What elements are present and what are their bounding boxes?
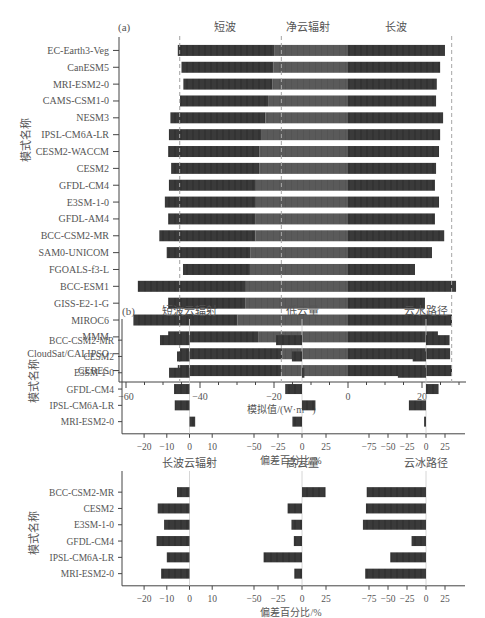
model-label: GISS-E2-1-G [54,298,109,309]
bar [292,351,302,361]
bar [276,335,302,345]
bar [285,384,302,394]
bar [409,400,426,410]
bar [426,384,439,394]
bar-net [258,331,348,342]
bar-longwave [348,213,435,224]
panel-b-top-chart: (b)模式名称BCC-CSM2-MRCESM2E3SM-1-0GFDL-CM4I… [27,304,465,466]
bar [367,487,426,497]
subplot-title: 低云量 [286,305,319,317]
bar-shortwave [138,281,246,292]
model-label: GFDL-CM4 [66,385,114,395]
model-label: FGOALS-f3-L [49,264,109,275]
bar-longwave [348,197,439,208]
bar-longwave [348,331,438,342]
model-label: IPSL-CM6A-LR [50,401,115,411]
bar-longwave [348,112,443,123]
x-tick-label: −20 [266,391,282,402]
bar [390,552,426,562]
bar-shortwave [178,365,282,376]
bar [164,520,189,530]
subplot-title: 长波云辐射 [162,456,217,469]
model-label: NESM3 [76,112,109,123]
x-axis-label: 偏差百分比/% [260,606,321,618]
bar [412,536,426,546]
bar-longwave [348,264,415,275]
bar [302,368,304,378]
x-tick-label: 25 [440,442,450,452]
model-label: CanESM5 [67,62,109,73]
bar-longwave [348,163,436,174]
bar-net [250,264,348,275]
bar-longwave [348,146,439,157]
bar [169,368,189,378]
bar-shortwave [165,197,256,208]
model-label: IPSL-CM6A-LR [50,553,115,563]
x-tick-label: −75 [362,442,377,452]
bar-net [246,281,348,292]
bar [366,503,426,513]
bar-shortwave [159,230,255,241]
bar-net [268,95,348,106]
x-tick-label: 0 [300,442,305,452]
bar-shortwave [170,112,265,123]
section-title: 短波 [214,20,236,33]
bar-net [256,180,348,191]
bar-net [272,79,348,90]
bar-longwave [348,95,436,106]
x-tick-label: 0 [187,442,192,452]
x-tick-label: 0 [187,594,192,604]
x-tick-label: −10 [159,442,174,452]
model-label: CESM2 [77,163,109,174]
x-tick-label: 0 [300,594,305,604]
bar [292,417,302,427]
bar [426,335,450,345]
x-tick-label: −25 [271,442,286,452]
bar-shortwave [169,129,261,140]
x-tick-label: 10 [207,594,217,604]
subplot-title: 高云量 [286,456,319,469]
model-label: BCC-CSM2-MR [49,488,115,498]
x-tick-label: −20 [137,594,152,604]
bar-longwave [348,281,456,292]
bar-shortwave [168,213,255,224]
x-tick-label: 10 [207,442,217,452]
bar [302,487,326,497]
y-axis-label: 模式名称 [19,118,32,162]
bar-shortwave [169,180,256,191]
x-tick-label: −50 [381,594,396,604]
bar-longwave [348,247,432,258]
model-label: CESM2 [83,352,114,362]
bar [288,503,302,513]
bar-longwave [348,180,435,191]
x-tick-label: 0 [346,391,351,402]
bar [160,335,190,345]
x-tick-label: −25 [271,594,286,604]
x-tick-label: −25 [400,594,415,604]
bar-longwave [348,79,437,90]
y-axis-label: 模式名称 [27,511,40,555]
bar-net [259,163,348,174]
bar [174,384,189,394]
model-label: E3SM-1-0 [74,520,114,530]
x-tick-label: −50 [381,442,396,452]
bar-shortwave [183,264,250,275]
x-tick-label: −60 [118,391,134,402]
model-label: E3SM-1-0 [74,368,114,378]
bar-longwave [348,129,440,140]
bar-shortwave [180,95,268,106]
model-label: CESM2-WACCM [36,146,109,157]
model-label: GFDL-CM4 [66,537,114,547]
x-tick-label: 25 [321,594,331,604]
bar-net [265,112,348,123]
subplot-title: 云水路径 [404,305,448,317]
subplot-title: 短波云辐射 [162,304,217,317]
model-label: MRI-ESM2-0 [53,79,109,90]
bar [365,569,426,579]
model-label: CESM2 [83,504,114,514]
bar [294,536,302,546]
model-label: BCC-ESM1 [60,281,109,292]
bar [161,569,189,579]
bar-shortwave [178,45,275,56]
bar [177,351,189,361]
